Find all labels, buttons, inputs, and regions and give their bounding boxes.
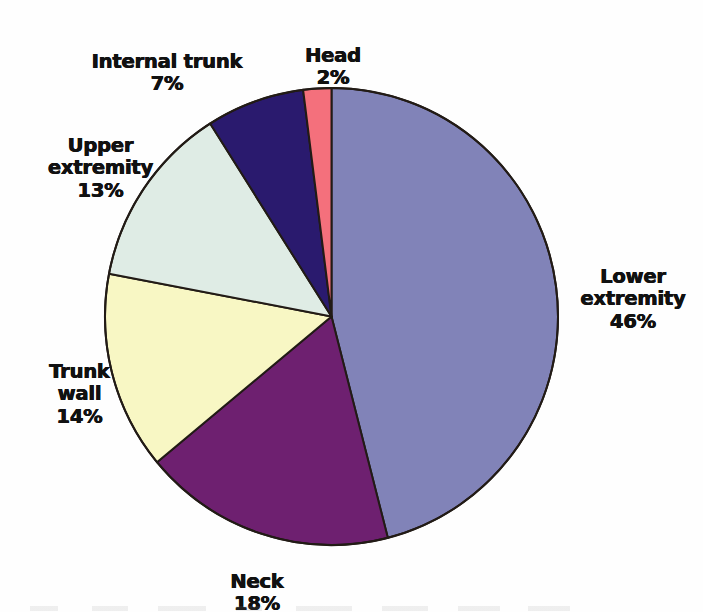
slice-label-neck-name: Neck — [230, 570, 283, 593]
slice-label-neck: Neck 18% — [196, 548, 318, 612]
slice-label-lower-extremity-name: Lower extremity — [580, 265, 685, 311]
slice-label-trunk-wall: Trunk wall 14% — [12, 338, 147, 451]
slice-label-internal-trunk-name: Internal trunk — [92, 50, 243, 73]
slice-label-upper-extremity-percent: 13% — [18, 180, 183, 203]
slice-label-upper-extremity: Upper extremity 13% — [18, 112, 183, 225]
slice-label-lower-extremity: Lower extremity 46% — [566, 243, 700, 356]
slice-label-internal-trunk-percent: 7% — [62, 73, 272, 96]
slice-label-trunk-wall-name: Trunk wall — [49, 360, 110, 406]
slice-label-head: Head 2% — [270, 22, 396, 112]
slice-label-internal-trunk: Internal trunk 7% — [62, 28, 272, 118]
slice-label-lower-extremity-percent: 46% — [566, 311, 700, 334]
slice-label-head-name: Head — [305, 44, 361, 67]
slice-label-head-percent: 2% — [270, 67, 396, 90]
slice-label-trunk-wall-percent: 14% — [12, 406, 147, 429]
pie-chart-figure: Internal trunk 7% Head 2% Upper extremit… — [0, 0, 703, 612]
cropped-caption-remnant — [30, 606, 590, 611]
slice-label-upper-extremity-name: Upper extremity — [48, 134, 153, 180]
